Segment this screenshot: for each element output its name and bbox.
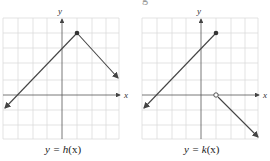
caption-k: y = k(x)	[184, 143, 220, 155]
graphs-canvas: x y x y	[0, 0, 270, 161]
vertex-point	[75, 31, 80, 36]
grid-k	[142, 18, 258, 139]
grid-h	[3, 18, 119, 139]
filled-endpoint	[214, 31, 219, 36]
svg-text:y: y	[57, 6, 62, 16]
svg-text:x: x	[123, 90, 128, 100]
caption-h: y = h(x)	[45, 143, 81, 155]
open-endpoint	[214, 93, 218, 97]
graph-k: x y	[142, 6, 267, 139]
graph-h: x y	[3, 6, 128, 139]
svg-text:y: y	[196, 6, 201, 16]
svg-text:x: x	[262, 90, 267, 100]
